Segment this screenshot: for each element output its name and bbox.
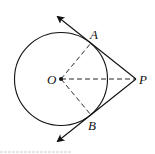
label-A: A bbox=[89, 27, 98, 42]
tangent-line-PB bbox=[58, 79, 136, 141]
segment-OA bbox=[61, 43, 91, 79]
label-B: B bbox=[88, 118, 96, 133]
label-O: O bbox=[47, 72, 57, 87]
center-point-O bbox=[59, 77, 63, 81]
tangent-diagram: A O P B bbox=[0, 0, 155, 154]
segment-OB bbox=[61, 79, 91, 115]
label-P: P bbox=[138, 72, 147, 87]
